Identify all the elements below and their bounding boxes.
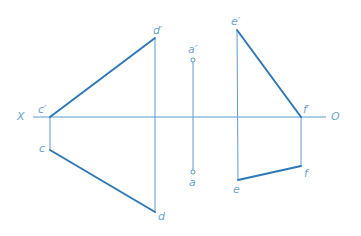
label-c: c	[39, 143, 45, 154]
label-f-prime: f′	[303, 104, 309, 115]
line-e-f	[238, 166, 301, 180]
point-a	[191, 170, 195, 174]
projection-diagram: X O c′ d′ c d a′ a e′ f′ e f	[0, 0, 361, 236]
label-d-prime: d′	[153, 25, 162, 36]
line-e-prime-f-prime	[237, 30, 301, 117]
label-f: f	[304, 168, 308, 179]
line-c-prime-d-prime	[50, 38, 155, 117]
line-c-d	[50, 150, 155, 212]
label-e: e	[233, 184, 240, 195]
diagram-svg	[0, 0, 361, 236]
label-a-prime: a′	[188, 44, 197, 55]
label-a: a	[189, 177, 196, 188]
projector-e	[237, 30, 238, 180]
axis-label-x: X	[17, 111, 25, 122]
label-e-prime: e′	[231, 16, 240, 27]
axis-label-o: O	[331, 111, 340, 122]
label-d: d	[158, 211, 165, 222]
point-a-prime	[191, 58, 195, 62]
label-c-prime: c′	[38, 104, 47, 115]
